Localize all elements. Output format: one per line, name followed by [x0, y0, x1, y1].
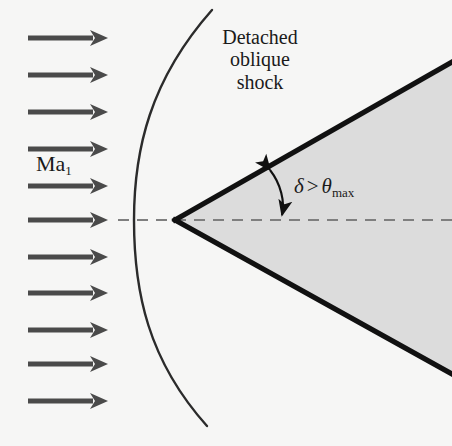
shock-label-line-3: shock — [237, 71, 284, 93]
greater-than-symbol: > — [304, 174, 322, 198]
mach-number-label: Ma1 — [36, 152, 72, 177]
theta-max-subscript: max — [332, 185, 354, 200]
detached-shock-text-label: Detached oblique shock — [196, 26, 324, 93]
deflection-angle-label: δ>θmax — [294, 175, 354, 199]
shock-label-line-1: Detached — [222, 26, 298, 48]
mach-symbol: Ma — [36, 151, 65, 176]
theta-symbol: θ — [322, 174, 332, 198]
delta-symbol: δ — [294, 174, 304, 198]
shock-label-line-2: oblique — [230, 48, 290, 70]
detached-shock-figure: Detached oblique shock Ma1 δ>θmax — [0, 0, 452, 446]
mach-subscript: 1 — [65, 163, 72, 178]
